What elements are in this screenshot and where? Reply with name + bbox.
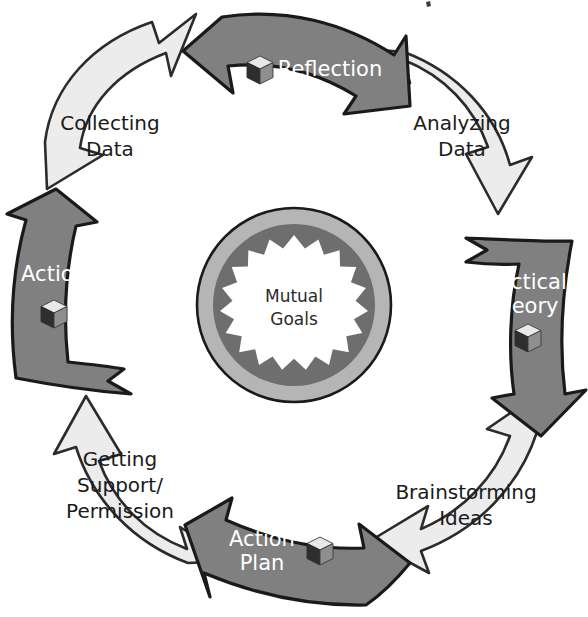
stage-arrow-action[interactable]: Action <box>7 189 131 394</box>
transition-arrow-collecting-data[interactable]: Collecting Data <box>45 14 196 189</box>
diagram-canvas: Collecting Data Analyzing Data Brainstor… <box>0 0 588 617</box>
transition-label-collecting-data-line2: Data <box>86 137 134 161</box>
center-label-line1: Mutual <box>265 286 323 306</box>
stage-label-action-plan-line1: Action <box>229 527 295 551</box>
stage-label-action: Action <box>21 262 87 286</box>
transition-label-getting-support-line3: Permission <box>66 499 174 523</box>
stage-label-practical-theory-line1: Practical <box>477 270 567 294</box>
transition-label-getting-support-line1: Getting <box>83 447 157 471</box>
stage-arrow-action-plan[interactable]: Action Plan <box>185 498 410 605</box>
transition-label-brainstorming-ideas-line2: Ideas <box>439 506 493 530</box>
cube-icon-action <box>41 300 67 328</box>
cube-icon-action-plan <box>307 537 333 565</box>
transition-label-collecting-data-line1: Collecting <box>60 111 159 135</box>
stage-label-action-plan-line2: Plan <box>240 551 285 575</box>
center-label-line2: Goals <box>270 309 318 329</box>
cube-icon-practical-theory <box>515 324 541 352</box>
stage-arrow-reflection[interactable]: Reflection <box>183 14 410 114</box>
cube-icon-reflection <box>247 56 273 84</box>
stage-arrow-practical-theory[interactable]: Practical Theory <box>466 238 586 436</box>
transition-label-getting-support-line2: Support/ <box>77 473 163 497</box>
transition-label-analyzing-data-line2: Data <box>438 137 486 161</box>
transition-label-brainstorming-ideas-line1: Brainstorming <box>395 480 536 504</box>
cropped-text-remnant <box>426 1 431 7</box>
stage-label-practical-theory-line2: Theory <box>485 294 559 318</box>
transition-label-analyzing-data-line1: Analyzing <box>413 111 510 135</box>
stage-label-reflection: Reflection <box>278 57 383 81</box>
cyclical-process-diagram: Collecting Data Analyzing Data Brainstor… <box>0 0 588 617</box>
transition-arrow-brainstorming-ideas[interactable]: Brainstorming Ideas <box>370 392 541 573</box>
center-hub: Mutual Goals <box>197 208 391 402</box>
